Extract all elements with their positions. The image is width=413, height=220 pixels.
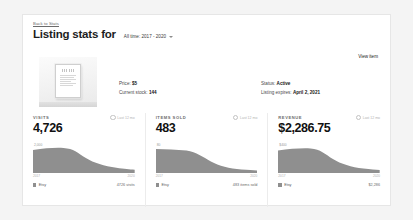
expires-label: Listing expires: [261, 90, 292, 95]
stat-hint[interactable]: Last 12 mo [233, 113, 257, 120]
info-icon [110, 115, 115, 120]
stat-card-visits: VISITS Last 12 mo 4,726 2,000 2017 2020 [23, 113, 145, 207]
date-range-dropdown[interactable]: All time: 2017 - 2020 [124, 34, 173, 39]
stat-label: VISITS [33, 113, 49, 120]
title-row: Listing stats for All time: 2017 - 2020 [33, 28, 173, 40]
y-max-label: $400 [279, 143, 286, 147]
y-max-label: 2,000 [34, 143, 42, 147]
visits-x-axis: 2017 2020 [33, 174, 135, 178]
visits-legend: Etsy 4726 visits [33, 183, 135, 187]
listing-stats-card: Back to Stats Listing stats for All time… [22, 14, 391, 206]
legend-total: $2,286 [368, 183, 380, 187]
stat-header: REVENUE Last 12 mo [278, 113, 380, 120]
page-title: Listing stats for [33, 28, 116, 40]
revenue-area-path [278, 148, 380, 173]
stat-value: 4,726 [33, 121, 135, 135]
listing-status-meta: Status: Active Listing expires: April 2,… [261, 79, 320, 97]
x-tick-start: 2017 [33, 174, 40, 178]
status-row: Status: Active [261, 79, 320, 88]
items-sold-area-path [156, 149, 258, 173]
legend-total: 4726 visits [117, 183, 135, 187]
stat-hint[interactable]: Last 12 mo [356, 113, 380, 120]
x-tick-end: 2020 [128, 174, 135, 178]
stat-card-items-sold: ITEMS SOLD Last 12 mo 483 80 2017 2020 [145, 113, 268, 207]
visits-area-chart: 2,000 [33, 143, 135, 173]
info-icon [356, 115, 361, 120]
expires-row: Listing expires: April 2, 2021 [261, 88, 320, 97]
stock-value: 144 [149, 90, 157, 95]
y-max-label: 80 [157, 143, 161, 147]
x-tick-start: 2017 [156, 174, 163, 178]
stat-hint-label: Last 12 mo [117, 116, 134, 120]
legend-series-label: Etsy [39, 183, 46, 187]
stat-label: REVENUE [278, 113, 302, 120]
price-label: Price: [119, 81, 131, 86]
stat-cards: VISITS Last 12 mo 4,726 2,000 2017 2020 [23, 113, 390, 207]
listing-thumbnail[interactable] [39, 57, 97, 105]
items-sold-x-axis: 2017 2020 [156, 174, 258, 178]
legend-series: Etsy [156, 183, 169, 187]
listing-summary: Price: $5 Current stock: 144 Status: Act… [33, 57, 380, 107]
price-row: Price: $5 [119, 79, 157, 88]
stat-hint[interactable]: Last 12 mo [110, 113, 134, 120]
legend-swatch-icon [278, 183, 281, 186]
chevron-down-icon [169, 36, 173, 38]
status-label: Status: [261, 81, 275, 86]
price-value: $5 [132, 81, 137, 86]
stock-label: Current stock: [119, 90, 148, 95]
legend-swatch-icon [156, 183, 159, 186]
legend-series: Etsy [33, 183, 46, 187]
revenue-area-chart: $400 [278, 143, 380, 173]
listing-price-meta: Price: $5 Current stock: 144 [119, 79, 157, 97]
stat-card-revenue: REVENUE Last 12 mo $2,286.75 $400 2017 2… [267, 113, 390, 207]
x-tick-start: 2017 [278, 174, 285, 178]
status-badge: Active [277, 81, 291, 86]
stat-value: $2,286.75 [278, 121, 380, 135]
stat-hint-label: Last 12 mo [363, 116, 380, 120]
visits-chart-svg [33, 143, 135, 173]
items-sold-area-chart: 80 [156, 143, 258, 173]
breadcrumb-back-to-stats[interactable]: Back to Stats [33, 21, 59, 26]
x-tick-end: 2020 [250, 174, 257, 178]
framed-print-icon [55, 64, 81, 98]
legend-series-label: Etsy [284, 183, 291, 187]
stock-row: Current stock: 144 [119, 88, 157, 97]
visits-area-path [33, 148, 135, 173]
date-range-label: All time: 2017 - 2020 [124, 34, 166, 39]
stat-header: VISITS Last 12 mo [33, 113, 135, 120]
legend-swatch-icon [33, 183, 36, 186]
print-script-line [62, 69, 75, 72]
legend-series-label: Etsy [161, 183, 168, 187]
stat-label: ITEMS SOLD [156, 113, 187, 120]
items-sold-legend: Etsy 483 items sold [156, 183, 258, 187]
x-tick-end: 2020 [373, 174, 380, 178]
stat-hint-label: Last 12 mo [240, 116, 257, 120]
thumbnail-shelf [39, 102, 97, 107]
stat-header: ITEMS SOLD Last 12 mo [156, 113, 258, 120]
revenue-legend: Etsy $2,286 [278, 183, 380, 187]
revenue-chart-svg [278, 143, 380, 173]
print-text-lines [60, 75, 76, 88]
legend-total: 483 items sold [233, 183, 257, 187]
stat-value: 483 [156, 121, 258, 135]
stats-page: Back to Stats Listing stats for All time… [0, 0, 413, 220]
info-icon [233, 115, 238, 120]
expires-value: April 2, 2021 [293, 90, 320, 95]
revenue-x-axis: 2017 2020 [278, 174, 380, 178]
items-sold-chart-svg [156, 143, 258, 173]
legend-series: Etsy [278, 183, 291, 187]
